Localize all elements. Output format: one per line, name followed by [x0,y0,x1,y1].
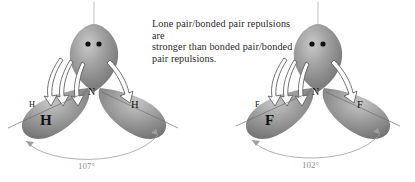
caption-line-2: stronger than bonded pair/bonded [152,41,292,52]
ligand-label-left-small-nf3: F [255,100,260,109]
caption-line-3: pair repulsions. [152,53,216,64]
lone-pair-dot [85,41,90,46]
ligand-label-left-large-ammonia: H [40,112,52,129]
center-atom-label-nf3: N [312,86,319,97]
bond-angle-arc [26,135,158,159]
lone-pair-dot [309,41,314,46]
lone-pair-dot [96,41,101,46]
ligand-label-right-ammonia: H [131,99,139,110]
ligand-label-left-small-ammonia: H [29,100,35,109]
bond-angle-label-ammonia: 107° [78,161,95,171]
explanatory-caption: Lone pair/bonded pair repulsions are str… [152,18,302,64]
bond-angle-arc [252,134,380,158]
angle-arc-arrowhead [252,140,260,146]
lone-pair-dot [320,41,325,46]
bond-angle-label-nf3: 102° [302,160,319,170]
ligand-label-left-large-nf3: F [265,112,274,129]
ligand-label-right-nf3: F [357,99,363,110]
bonding-lobe-right [323,88,390,139]
center-atom-label-ammonia: N [88,86,95,97]
caption-line-1: Lone pair/bonded pair repulsions are [152,18,290,41]
angle-arc-arrowhead [26,141,34,147]
vsepr-diagram: Lone pair/bonded pair repulsions are str… [0,0,415,182]
